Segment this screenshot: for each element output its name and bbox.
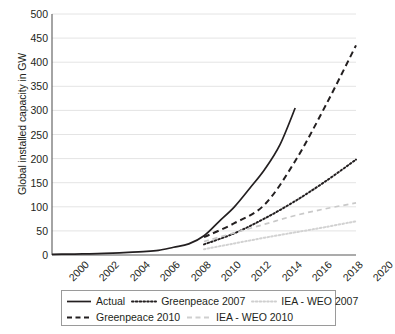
- legend-label: Actual: [96, 296, 125, 307]
- legend-entry[interactable]: IEA - WEO 2007: [251, 296, 358, 307]
- x-tick-label: 2010: [219, 259, 243, 283]
- legend-label: Greenpeace 2010: [96, 312, 180, 323]
- x-tick-label: 2000: [67, 259, 91, 283]
- x-tick-label: 2006: [158, 259, 182, 283]
- legend-label: IEA - WEO 2007: [281, 296, 358, 307]
- legend-swatch-solid-black: [66, 297, 92, 306]
- legend-label: Greenpeace 2007: [161, 296, 245, 307]
- legend-swatch-dashed-gray: [186, 313, 212, 322]
- legend-swatch-dashed-black: [66, 313, 92, 322]
- x-tick-label: 2020: [371, 259, 395, 283]
- legend-entry[interactable]: Greenpeace 2007: [131, 296, 245, 307]
- x-tick-label: 2014: [280, 259, 304, 283]
- legend-swatch-dotted-black: [131, 297, 157, 306]
- legend-entry[interactable]: IEA - WEO 2010: [186, 312, 293, 323]
- legend-entry[interactable]: Greenpeace 2010: [66, 312, 180, 323]
- x-tick-label: 2002: [97, 259, 121, 283]
- chart-legend: ActualGreenpeace 2007IEA - WEO 2007Green…: [61, 290, 336, 326]
- x-tick-label: 2012: [249, 259, 273, 283]
- legend-swatch-dotted-gray: [251, 297, 277, 306]
- legend-label: IEA - WEO 2010: [216, 312, 293, 323]
- x-tick-label: 2008: [188, 259, 212, 283]
- x-tick-label: 2018: [340, 259, 364, 283]
- legend-entry[interactable]: Actual: [66, 296, 125, 307]
- legend-row: Greenpeace 2010IEA - WEO 2010: [66, 309, 331, 325]
- legend-row: ActualGreenpeace 2007IEA - WEO 2007: [66, 293, 331, 309]
- x-tick-label: 2004: [128, 259, 152, 283]
- x-tick-label: 2016: [310, 259, 334, 283]
